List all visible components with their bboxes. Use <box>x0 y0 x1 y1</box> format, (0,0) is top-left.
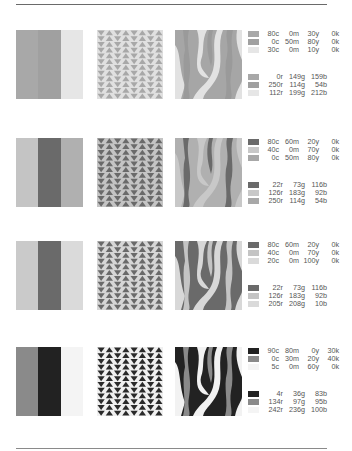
color-swatch <box>248 190 259 196</box>
stripe-swatch <box>16 138 83 207</box>
stripe <box>38 347 60 416</box>
rgb-row: 112r199g212b <box>248 89 327 97</box>
stripe-swatch <box>16 30 83 99</box>
color-swatch <box>248 285 259 291</box>
color-legend: 90c80m0y30k0c30m20y40k5c0m60y0k4r36g83b1… <box>248 347 348 419</box>
color-swatch <box>248 258 259 264</box>
stripe <box>61 241 83 310</box>
green-value: 199g <box>283 89 305 97</box>
stripe <box>61 347 83 416</box>
color-swatch <box>248 47 259 53</box>
color-swatch <box>248 182 259 188</box>
rgb-row: 205r208g10b <box>248 300 327 308</box>
blue-value: 100b <box>305 406 327 414</box>
yellow-value: 100y <box>299 257 319 265</box>
black-value: 0k <box>319 154 339 162</box>
color-swatch <box>248 301 259 307</box>
green-value: 208g <box>283 300 305 308</box>
triangle-pattern <box>97 241 163 310</box>
pattern-row: 80c0m30y0k0c50m80y0k30c0m10y0k0r149g159b… <box>0 30 352 102</box>
color-swatch <box>248 364 259 370</box>
red-value: 242r <box>265 406 283 414</box>
color-swatch <box>248 293 259 299</box>
cmyk-row: 30c0m10y0k <box>248 46 339 54</box>
rgb-values: 4r36g83b134r97g95b242r236g100b <box>248 390 327 414</box>
pattern-row: 90c80m0y30k0c30m20y40k5c0m60y0k4r36g83b1… <box>0 347 352 419</box>
color-swatch <box>248 74 259 80</box>
stripe <box>16 30 38 99</box>
wave-pattern <box>175 138 242 207</box>
yellow-value: 80y <box>299 154 319 162</box>
cmyk-row: 0c50m80y0k <box>248 154 339 162</box>
cyan-value: 5c <box>265 363 279 371</box>
cmyk-row: 20c0m100y0k <box>248 257 339 265</box>
triangle-pattern <box>97 347 163 416</box>
stripe <box>61 30 83 99</box>
blue-value: 54b <box>305 197 327 205</box>
color-swatch <box>248 82 259 88</box>
color-swatch <box>248 242 259 248</box>
color-swatch <box>248 90 259 96</box>
blue-value: 10b <box>305 300 327 308</box>
red-value: 112r <box>265 89 283 97</box>
magenta-value: 0m <box>279 363 299 371</box>
rgb-values: 0r149g159b250r114g54b112r199g212b <box>248 73 327 97</box>
color-legend: 80c0m30y0k0c50m80y0k30c0m10y0k0r149g159b… <box>248 30 348 102</box>
pattern-row: 80c60m20y0k40c0m70y0k0c50m80y0k22r73g116… <box>0 138 352 210</box>
triangle-pattern <box>97 30 163 99</box>
blue-value: 212b <box>305 89 327 97</box>
magenta-value: 50m <box>279 154 299 162</box>
stripe <box>16 138 38 207</box>
stripe <box>38 241 60 310</box>
cyan-value: 0c <box>265 154 279 162</box>
stripe-swatch <box>16 347 83 416</box>
wave-pattern <box>175 241 242 310</box>
wave-pattern <box>175 30 242 99</box>
cyan-value: 20c <box>265 257 279 265</box>
cmyk-values: 80c0m30y0k0c50m80y0k30c0m10y0k <box>248 30 339 54</box>
cmyk-row: 5c0m60y0k <box>248 363 339 371</box>
stripe <box>16 241 38 310</box>
rgb-row: 242r236g100b <box>248 406 327 414</box>
stripe <box>61 138 83 207</box>
cmyk-values: 80c60m20y0k40c0m70y0k20c0m100y0k <box>248 241 339 265</box>
magenta-value: 0m <box>279 257 299 265</box>
green-value: 236g <box>283 406 305 414</box>
black-value: 0k <box>319 363 339 371</box>
cmyk-values: 80c60m20y0k40c0m70y0k0c50m80y0k <box>248 138 339 162</box>
bottom-rule <box>16 448 327 449</box>
color-swatch <box>248 348 259 354</box>
stripe-swatch <box>16 241 83 310</box>
rgb-values: 22r73g116b126r183g92b250r114g54b <box>248 181 327 205</box>
wave-pattern <box>175 347 242 416</box>
color-swatch <box>248 391 259 397</box>
pattern-row: 80c60m20y0k40c0m70y0k20c0m100y0k22r73g11… <box>0 241 352 313</box>
color-swatch <box>248 356 259 362</box>
yellow-value: 60y <box>299 363 319 371</box>
rgb-values: 22r73g116b126r183g92b205r208g10b <box>248 284 327 308</box>
red-value: 205r <box>265 300 283 308</box>
color-legend: 80c60m20y0k40c0m70y0k20c0m100y0k22r73g11… <box>248 241 348 313</box>
color-swatch <box>248 399 259 405</box>
green-value: 114g <box>283 197 305 205</box>
stripe <box>16 347 38 416</box>
black-value: 0k <box>319 257 339 265</box>
black-value: 0k <box>319 46 339 54</box>
stripe <box>38 30 60 99</box>
color-swatch <box>248 198 259 204</box>
red-value: 250r <box>265 197 283 205</box>
color-swatch <box>248 139 259 145</box>
color-swatch <box>248 407 259 413</box>
stripe <box>38 138 60 207</box>
color-swatch <box>248 147 259 153</box>
color-legend: 80c60m20y0k40c0m70y0k0c50m80y0k22r73g116… <box>248 138 348 210</box>
yellow-value: 10y <box>299 46 319 54</box>
top-rule <box>16 4 327 5</box>
magenta-value: 0m <box>279 46 299 54</box>
cmyk-values: 90c80m0y30k0c30m20y40k5c0m60y0k <box>248 347 339 371</box>
triangle-pattern <box>97 138 163 207</box>
cyan-value: 30c <box>265 46 279 54</box>
color-swatch <box>248 250 259 256</box>
color-swatch <box>248 39 259 45</box>
color-swatch <box>248 31 259 37</box>
